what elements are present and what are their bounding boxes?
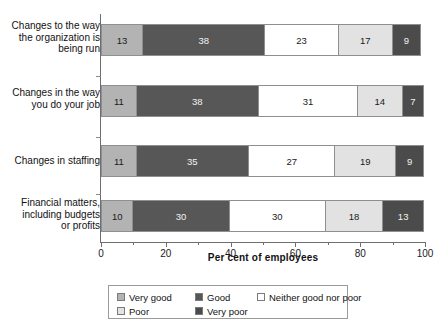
legend-item[interactable]: Good [195,292,230,303]
bar-segment[interactable]: 27 [248,145,335,177]
bar-row: 113527199 [101,145,425,177]
bar-row: 133823179 [101,24,425,56]
x-axis-tick-minor [328,242,329,245]
bar-segment-value: 11 [114,156,124,167]
bar-segment[interactable]: 18 [325,200,383,232]
legend-item[interactable]: Poor [117,306,149,317]
chart-legend: Very goodGoodNeither good nor poorPoorVe… [108,285,348,319]
stacked-bar[interactable]: 133823179 [101,24,425,56]
stacked-bar[interactable]: 113527199 [101,145,425,177]
bar-segment-value: 13 [117,35,128,46]
bar-segment-value: 30 [272,211,283,222]
bar-segment-value: 17 [360,35,371,46]
x-axis-tick-major [231,242,232,247]
bar-segment[interactable]: 9 [392,24,421,56]
legend-swatch-icon [195,293,203,301]
category-label-line: you do your job [4,99,100,111]
category-label-line: or profits [4,220,100,232]
x-axis-tick-major [425,242,426,247]
bar-segment-value: 30 [176,211,187,222]
stacked-bar[interactable]: 1030301813 [101,200,425,232]
bar-segment-value: 38 [192,96,203,107]
x-axis-tick-minor [198,242,199,245]
bar-segment[interactable]: 13 [101,24,143,56]
bar-segment-value: 10 [112,211,123,222]
category-label-line: Changes in the way [4,87,100,99]
legend-swatch-icon [257,293,265,301]
bar-segment[interactable]: 30 [229,200,326,232]
category-label-line: Financial matters, [4,197,100,209]
legend-row: Very goodGoodNeither good nor poor [117,290,347,304]
y-axis-tick [96,137,101,138]
legend-item[interactable]: Very poor [195,306,248,317]
category-label-3: Financial matters,including budgetsor pr… [4,197,100,232]
bar-row: 113831147 [101,85,425,117]
bar-segment[interactable]: 14 [357,85,402,117]
legend-label: Good [207,292,230,303]
bar-segment[interactable]: 13 [382,200,424,232]
legend-label: Very poor [207,306,248,317]
category-label-line: Changes in staffing [4,155,100,167]
x-axis-title: Per cent of employees [101,252,425,263]
category-label-1: Changes in the wayyou do your job [4,87,100,110]
bar-segment[interactable]: 11 [101,145,137,177]
bar-segment-value: 19 [360,156,371,167]
bar-segment[interactable]: 38 [136,85,259,117]
bar-segment-value: 23 [296,35,307,46]
bar-segment-value: 27 [286,156,297,167]
bar-segment-value: 7 [410,96,415,107]
bar-segment-value: 9 [404,35,409,46]
bar-segment-value: 38 [198,35,209,46]
legend-swatch-icon [117,293,125,301]
y-axis-tick [96,76,101,77]
x-axis-tick-minor [133,242,134,245]
bar-segment-value: 9 [407,156,412,167]
x-axis-tick-major [360,242,361,247]
bar-segment-value: 13 [398,211,409,222]
bar-row: 1030301813 [101,200,425,232]
category-label-0: Changes to the waythe organization isbei… [4,20,100,55]
y-axis-tick [96,194,101,195]
bar-segment[interactable]: 23 [264,24,339,56]
bar-segment-value: 35 [187,156,198,167]
bar-segment[interactable]: 30 [132,200,229,232]
stacked-bar[interactable]: 113831147 [101,85,425,117]
bar-segment-value: 31 [303,96,314,107]
bar-segment[interactable]: 19 [334,145,396,177]
x-axis-tick-major [295,242,296,247]
category-label-line: being run [4,43,100,55]
x-axis-tick-minor [393,242,394,245]
bar-segment[interactable]: 10 [101,200,133,232]
x-axis-tick-major [101,242,102,247]
category-label-line: Changes to the way [4,20,100,32]
bar-segment[interactable]: 11 [101,85,137,117]
bar-segment-value: 11 [114,96,124,107]
category-label-line: the organization is [4,32,100,44]
bar-segment[interactable]: 9 [395,145,424,177]
plot-area: 1338231791138311471135271991030301813 [101,14,425,242]
legend-item[interactable]: Neither good nor poor [257,292,361,303]
bar-segment-value: 14 [375,96,386,107]
legend-label: Poor [129,306,149,317]
bar-segment[interactable]: 38 [142,24,265,56]
x-axis-tick-minor [263,242,264,245]
category-label-2: Changes in staffing [4,155,100,167]
bar-segment[interactable]: 7 [402,85,425,117]
bar-segment-value: 18 [349,211,360,222]
legend-label: Neither good nor poor [269,292,361,303]
legend-row: PoorVery poor [117,304,347,318]
bar-segment[interactable]: 31 [258,85,358,117]
x-axis-tick-major [166,242,167,247]
legend-swatch-icon [195,307,203,315]
bar-segment[interactable]: 35 [136,145,249,177]
bar-segment[interactable]: 17 [338,24,393,56]
legend-swatch-icon [117,307,125,315]
legend-label: Very good [129,292,172,303]
legend-item[interactable]: Very good [117,292,172,303]
category-label-line: including budgets [4,209,100,221]
